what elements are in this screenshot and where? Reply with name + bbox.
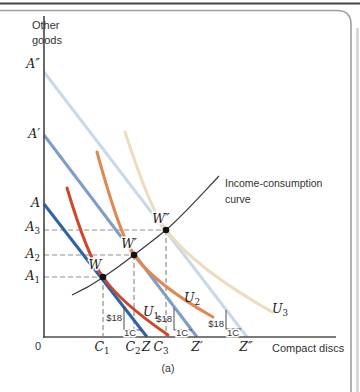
label-z-prime: Z′ — [190, 339, 203, 354]
label-a3: A3 — [24, 219, 40, 236]
figure-canvas: Other goods Compact discs 0 A″ A′ A A3 A… — [0, 0, 360, 392]
point-w-dot — [100, 274, 107, 281]
subfigure-caption: (a) — [162, 362, 175, 374]
label-w-dblprime: W″ — [152, 211, 170, 226]
label-a-dblprime: A″ — [25, 56, 40, 71]
slope-run-label-2: 1C — [176, 327, 188, 338]
point-w-prime-dot — [131, 252, 138, 259]
label-z-dblprime: Z″ — [238, 339, 253, 354]
label-c3: C3 — [153, 339, 168, 356]
label-a1: A1 — [24, 268, 40, 285]
indifference-curves — [67, 132, 272, 335]
indifference-curve-u3 — [125, 132, 272, 312]
point-w-dblprime-dot — [163, 227, 170, 234]
x-axis-title: Compact discs — [272, 342, 345, 354]
label-w: W — [89, 257, 103, 272]
annotation-line1: Income-consumption — [225, 177, 323, 189]
figure-panel: Other goods Compact discs 0 A″ A′ A A3 A… — [0, 0, 360, 392]
slope-rise-label-3: $18 — [208, 318, 224, 329]
label-u2: U2 — [184, 290, 200, 307]
annotation-line2: curve — [225, 193, 251, 205]
origin-label: 0 — [35, 340, 41, 352]
label-w-prime: W′ — [121, 236, 137, 251]
slope-rise-label-1: $18 — [106, 312, 122, 323]
budget-line-a-dblprime — [44, 72, 247, 337]
label-c1: C1 — [94, 339, 109, 356]
slope-run-label-1: 1C — [124, 327, 136, 338]
y-axis-title-line2: goods — [32, 34, 62, 46]
label-c2: C2 — [125, 339, 140, 356]
label-u3: U3 — [272, 301, 288, 318]
slope-rise-label-2: $18 — [156, 313, 172, 324]
y-axis-title-line1: Other — [32, 19, 60, 31]
label-a-prime: A′ — [27, 126, 40, 141]
budget-lines — [44, 72, 247, 337]
label-a: A — [30, 195, 40, 210]
slope-run-label-3: 1C — [227, 327, 239, 338]
guide-w — [44, 277, 103, 336]
label-a2: A2 — [24, 246, 40, 263]
label-z: Z — [141, 339, 151, 354]
